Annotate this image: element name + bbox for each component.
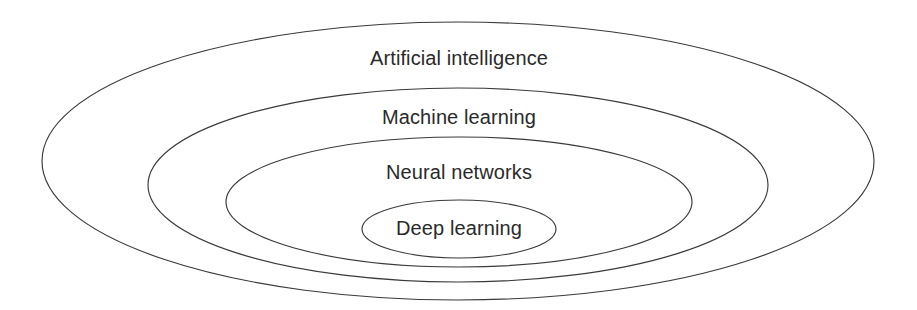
ellipse-neural-networks — [226, 137, 692, 267]
label-machine-learning: Machine learning — [382, 107, 536, 127]
label-deep-learning: Deep learning — [396, 218, 522, 238]
label-artificial-intelligence: Artificial intelligence — [370, 48, 548, 68]
nested-ellipse-diagram: Artificial intelligence Machine learning… — [0, 0, 917, 310]
label-neural-networks: Neural networks — [386, 162, 532, 182]
